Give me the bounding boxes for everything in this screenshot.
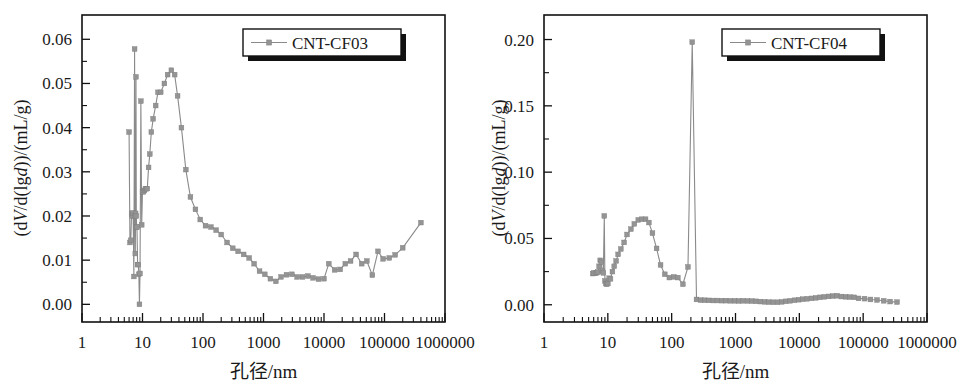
data-point: [203, 223, 208, 228]
x-tick-label: 10000: [303, 333, 346, 352]
data-point: [615, 252, 620, 257]
data-point: [706, 298, 711, 303]
data-point: [300, 275, 305, 280]
data-point: [605, 281, 610, 286]
data-point: [809, 296, 814, 301]
data-point: [230, 246, 235, 251]
plot-frame: [544, 15, 927, 322]
pore-size-distribution-figure: 11010010001000010000010000000.000.010.02…: [0, 0, 967, 389]
data-point: [131, 274, 136, 279]
y-tick-label: 0.02: [42, 207, 72, 226]
data-point: [158, 90, 163, 95]
data-point: [650, 231, 655, 236]
chart-svg-cnt-cf03: 11010010001000010000010000000.000.010.02…: [0, 0, 484, 389]
y-tick-label: 0.01: [42, 251, 72, 270]
data-point: [338, 267, 343, 272]
x-tick-label: 1000: [718, 333, 752, 352]
series-line: [592, 42, 896, 302]
y-tick-label: 0.06: [42, 30, 72, 49]
data-point: [151, 116, 156, 121]
data-point: [214, 228, 219, 233]
data-point: [236, 249, 241, 254]
data-point: [736, 299, 741, 304]
x-tick-label: 100: [658, 333, 684, 352]
y-tick-label: 0.05: [42, 74, 72, 93]
data-point: [611, 264, 616, 269]
data-point: [628, 227, 633, 232]
data-series-CNT-CF03: [127, 47, 424, 307]
x-tick-label: 100000: [837, 333, 888, 352]
data-point: [153, 103, 158, 108]
data-point: [654, 246, 659, 251]
data-point: [745, 299, 750, 304]
y-axis-title: (dV/d(lgd))/(mL/g): [11, 100, 32, 237]
data-point: [311, 275, 316, 280]
data-point: [290, 272, 295, 277]
data-point: [727, 298, 732, 303]
data-point: [145, 186, 150, 191]
x-axis-title: 孔径/nm: [230, 361, 298, 382]
data-point: [188, 195, 193, 200]
data-point: [127, 130, 132, 135]
data-point: [332, 267, 337, 272]
data-point: [359, 261, 364, 266]
legend[interactable]: CNT-CF03: [243, 29, 406, 61]
data-point: [601, 214, 606, 219]
data-point: [723, 298, 728, 303]
data-point: [262, 272, 267, 277]
chart-panel-cnt-cf04: 11010010001000010000010000000.000.050.10…: [484, 0, 967, 389]
legend-marker-sample: [267, 40, 272, 45]
data-point: [149, 130, 154, 135]
data-point: [284, 272, 289, 277]
data-point: [608, 277, 613, 282]
data-point: [179, 125, 184, 130]
data-point: [874, 298, 879, 303]
x-tick-label: 1000000: [897, 333, 957, 352]
series-line: [129, 49, 421, 304]
x-axis: 1101001000100001000001000000: [78, 313, 475, 352]
data-point: [208, 225, 213, 230]
data-point: [138, 99, 143, 104]
data-point: [675, 275, 680, 280]
data-point: [851, 295, 856, 300]
data-point: [613, 259, 618, 264]
x-tick-label: 100000: [359, 333, 410, 352]
data-point: [680, 282, 685, 287]
data-point: [343, 261, 348, 266]
data-point: [714, 298, 719, 303]
x-tick-label: 1: [78, 333, 87, 352]
data-point: [225, 240, 230, 245]
data-point: [134, 74, 139, 79]
data-point: [316, 277, 321, 282]
y-axis-title-text: (dV/d(lgd))/(mL/g): [11, 100, 32, 237]
data-point: [595, 269, 600, 274]
data-point: [598, 260, 603, 265]
data-point: [618, 247, 623, 252]
data-point: [273, 279, 278, 284]
data-point: [856, 296, 861, 301]
chart-panel-cnt-cf03: 11010010001000010000010000000.000.010.02…: [0, 0, 484, 389]
data-point: [128, 238, 133, 243]
data-point: [387, 256, 392, 261]
x-axis: 1101001000100001000001000000: [539, 313, 956, 352]
data-point: [295, 275, 300, 280]
data-point: [136, 262, 141, 267]
legend[interactable]: CNT-CF04: [722, 29, 885, 61]
x-tick-label: 100: [190, 333, 216, 352]
x-tick-label: 1: [539, 333, 548, 352]
x-axis-title: 孔径/nm: [701, 361, 769, 382]
data-point: [419, 220, 424, 225]
y-tick-label: 0.00: [42, 295, 72, 314]
x-tick-label: 1000000: [415, 333, 475, 352]
data-point: [198, 217, 203, 222]
data-point: [139, 222, 144, 227]
data-point: [762, 299, 767, 304]
data-point: [887, 299, 892, 304]
y-axis-title-text: (dV/d(lgd))/(mL/g): [489, 100, 510, 237]
data-point: [381, 256, 386, 261]
data-point: [766, 300, 771, 305]
x-tick-label: 10: [599, 333, 616, 352]
data-point: [147, 152, 152, 157]
y-tick-label: 0.20: [504, 31, 534, 50]
data-point: [133, 251, 138, 256]
